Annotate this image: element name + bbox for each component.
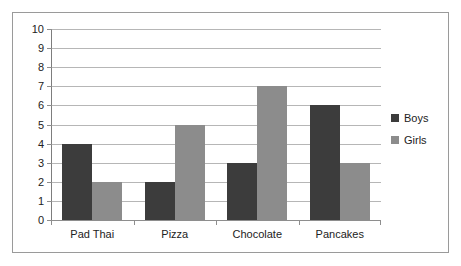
plot-area: 012345678910 <box>51 29 381 220</box>
x-axis: Pad ThaiPizzaChocolatePancakes <box>51 220 381 254</box>
legend-item-boys: Boys <box>391 107 449 129</box>
x-axis-tick <box>380 220 381 225</box>
gridline <box>51 86 381 87</box>
y-axis-tick <box>47 163 52 164</box>
legend-label: Girls <box>404 135 427 146</box>
legend-item-girls: Girls <box>391 129 449 151</box>
bar-girls-chocolate <box>257 86 287 220</box>
bar-boys-pad-thai <box>62 144 92 220</box>
x-axis-tick <box>216 220 217 225</box>
y-axis-label: 2 <box>38 176 44 187</box>
x-axis-tick <box>299 220 300 225</box>
bar-girls-pad-thai <box>92 182 122 220</box>
legend-swatch-icon <box>391 114 399 122</box>
legend-swatch-icon <box>391 136 399 144</box>
y-axis-tick <box>47 105 52 106</box>
y-axis-label: 8 <box>38 62 44 73</box>
y-axis-tick <box>47 182 52 183</box>
gridline <box>51 48 381 49</box>
y-axis-label: 10 <box>32 24 44 35</box>
y-axis-label: 5 <box>38 119 44 130</box>
bar-boys-pancakes <box>310 105 340 220</box>
legend-label: Boys <box>404 113 428 124</box>
gridline <box>51 67 381 68</box>
y-axis-label: 0 <box>38 215 44 226</box>
y-axis-label: 1 <box>38 195 44 206</box>
y-axis-tick <box>47 67 52 68</box>
y-axis-label: 9 <box>38 43 44 54</box>
chart-frame: 012345678910 Pad ThaiPizzaChocolatePanca… <box>12 12 449 253</box>
y-axis-tick <box>47 48 52 49</box>
y-axis-label: 4 <box>38 138 44 149</box>
y-axis-tick <box>47 125 52 126</box>
bar-girls-pizza <box>175 125 205 221</box>
x-axis-label-pancakes: Pancakes <box>316 229 364 240</box>
bar-boys-chocolate <box>227 163 257 220</box>
bar-girls-pancakes <box>340 163 370 220</box>
y-axis-label: 7 <box>38 81 44 92</box>
x-axis-label-pad-thai: Pad Thai <box>70 229 114 240</box>
x-axis-tick <box>134 220 135 225</box>
bar-boys-pizza <box>145 182 175 220</box>
x-axis-label-pizza: Pizza <box>161 229 188 240</box>
y-axis-tick <box>47 144 52 145</box>
x-axis-tick <box>51 220 52 225</box>
y-axis-tick <box>47 201 52 202</box>
y-axis-tick <box>47 86 52 87</box>
gridline <box>51 29 381 30</box>
y-axis-label: 6 <box>38 100 44 111</box>
y-axis-label: 3 <box>38 157 44 168</box>
y-axis-tick <box>47 29 52 30</box>
x-axis-label-chocolate: Chocolate <box>232 229 282 240</box>
chart-legend: BoysGirls <box>391 107 449 151</box>
